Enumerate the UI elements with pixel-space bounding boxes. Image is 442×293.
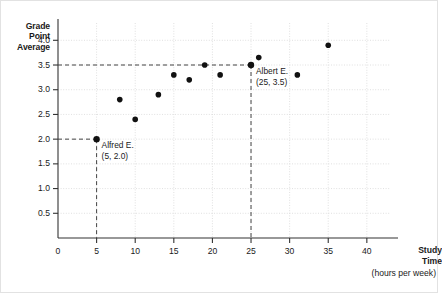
data-point[interactable] [186, 77, 192, 83]
data-point[interactable] [295, 72, 301, 78]
x-axis-tick-label: 40 [352, 246, 382, 256]
y-axis-tick-label: 1.0 [20, 183, 50, 193]
y-axis-title-line: Grade [0, 21, 50, 31]
annotation-name: Albert E. [256, 66, 288, 77]
x-axis-tick-label: 25 [236, 246, 266, 256]
y-axis-tick-label: 0.5 [20, 208, 50, 218]
annotation-coordinates: (5, 2.0) [102, 151, 134, 162]
data-point[interactable] [117, 97, 123, 103]
data-point[interactable] [156, 92, 162, 98]
x-axis-title-sublabel: (hours per week) [320, 268, 436, 279]
x-axis-tick-label: 15 [159, 246, 189, 256]
data-point[interactable] [202, 62, 208, 68]
data-point[interactable] [217, 72, 223, 78]
y-axis-tick-label: 1.5 [20, 158, 50, 168]
point-annotation: Alfred E.(5, 2.0) [102, 140, 134, 162]
annotation-name: Alfred E. [102, 140, 134, 151]
x-axis-tick-label: 0 [43, 246, 73, 256]
x-axis-tick-label: 5 [82, 246, 112, 256]
y-axis-tick-label: 2.5 [20, 109, 50, 119]
x-axis-tick-label: 20 [197, 246, 227, 256]
data-point[interactable] [248, 62, 254, 68]
data-point[interactable] [93, 136, 99, 142]
x-axis-title-line: Study [396, 245, 442, 256]
data-point[interactable] [171, 72, 177, 78]
y-axis-tick-label: 3.5 [20, 60, 50, 70]
data-point[interactable] [132, 117, 138, 123]
x-axis-tick-label: 35 [313, 246, 343, 256]
y-axis-tick-label: 3.0 [20, 84, 50, 94]
data-point[interactable] [325, 42, 331, 48]
x-axis-tick-label: 30 [275, 246, 305, 256]
x-axis-tick-label: 10 [120, 246, 150, 256]
annotation-coordinates: (25, 3.5) [256, 77, 288, 88]
data-point[interactable] [256, 55, 262, 61]
point-annotation: Albert E.(25, 3.5) [256, 66, 288, 88]
y-axis-tick-label: 4.0 [20, 35, 50, 45]
x-axis-title-line: Time [396, 256, 442, 267]
y-axis-tick-label: 2.0 [20, 134, 50, 144]
